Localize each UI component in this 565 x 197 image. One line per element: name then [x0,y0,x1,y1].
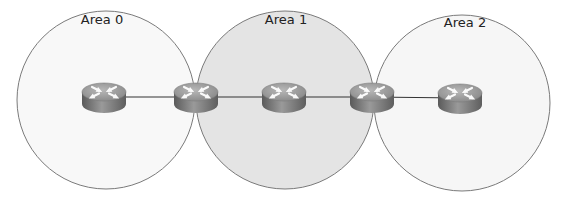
area-label: Area 0 [81,12,123,27]
router-icon [438,84,482,114]
router-icon [262,83,306,113]
router-icon [350,83,394,113]
router-icon [174,83,218,113]
area-label: Area 2 [444,15,486,30]
router-icon [82,83,126,113]
area-label: Area 1 [265,12,307,27]
